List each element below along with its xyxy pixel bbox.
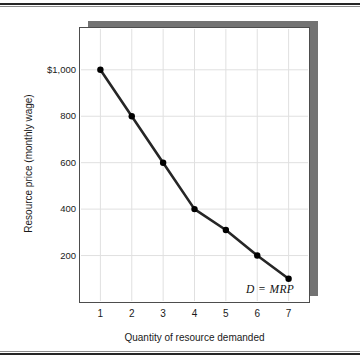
x-axis-tick-label: 6 — [245, 308, 269, 319]
y-axis-title: Resource price (monthly wage) — [23, 64, 34, 264]
figure-container: $1,000800600400200 1234567 D = MRP Quant… — [0, 0, 360, 361]
x-axis-tick-label: 2 — [120, 308, 144, 319]
data-point — [254, 252, 260, 258]
x-axis-tick-label: 3 — [151, 308, 175, 319]
data-point — [160, 159, 166, 165]
data-point — [285, 276, 291, 282]
x-axis-tick-label: 4 — [183, 308, 207, 319]
x-axis-title: Quantity of resource demanded — [79, 332, 310, 343]
x-axis-tick-label: 5 — [214, 308, 238, 319]
x-axis-tick-label: 1 — [88, 308, 112, 319]
data-point — [129, 113, 135, 119]
curve-label: D = MRP — [246, 283, 294, 295]
data-point — [191, 206, 197, 212]
data-point — [97, 67, 103, 73]
bottom-rule-thin — [0, 351, 360, 352]
x-axis-tick-label: 7 — [277, 308, 301, 319]
bottom-rule — [0, 353, 360, 355]
gridlines — [81, 29, 308, 301]
data-point — [223, 227, 229, 233]
